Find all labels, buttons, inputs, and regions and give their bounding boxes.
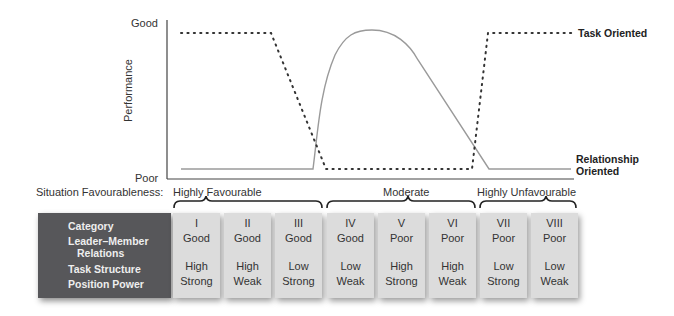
category-power: Weak <box>224 275 271 287</box>
category-task: Low <box>531 260 578 272</box>
task-oriented-line <box>181 33 575 169</box>
category-id: VI <box>429 217 476 229</box>
category-box-V: V Poor High Strong <box>378 213 425 298</box>
category-power: Strong <box>378 275 425 287</box>
header-lmr-line2: Relations <box>77 247 124 259</box>
category-lmr: Poor <box>429 232 476 244</box>
header-position-power: Position Power <box>68 278 144 290</box>
performance-chart <box>0 0 674 200</box>
category-power: Strong <box>173 275 220 287</box>
category-id: II <box>224 217 271 229</box>
category-power: Weak <box>531 275 578 287</box>
category-box-III: III Good Low Strong <box>275 213 322 298</box>
brace-moderate <box>327 196 475 208</box>
category-power: Weak <box>429 275 476 287</box>
criteria-header-box: Category Leader–Member Relations Task St… <box>38 213 171 298</box>
brace-highly-unfavourable <box>480 196 576 208</box>
category-task: High <box>173 260 220 272</box>
category-box-VIII: VIII Poor Low Weak <box>531 213 578 298</box>
category-lmr: Good <box>173 232 220 244</box>
category-id: V <box>378 217 425 229</box>
brace-highly-favourable <box>174 196 322 208</box>
category-box-IV: IV Good Low Weak <box>327 213 374 298</box>
category-lmr: Poor <box>378 232 425 244</box>
category-lmr: Poor <box>531 232 578 244</box>
category-box-VI: VI Poor High Weak <box>429 213 476 298</box>
category-box-II: II Good High Weak <box>224 213 271 298</box>
category-lmr: Good <box>224 232 271 244</box>
category-power: Strong <box>480 275 527 287</box>
group-braces <box>0 196 674 212</box>
relationship-oriented-line <box>181 30 571 169</box>
category-power: Weak <box>327 275 374 287</box>
category-task: High <box>429 260 476 272</box>
category-task: Low <box>480 260 527 272</box>
category-box-I: I Good High Strong <box>173 213 220 298</box>
category-box-VII: VII Poor Low Strong <box>480 213 527 298</box>
category-id: IV <box>327 217 374 229</box>
category-id: VII <box>480 217 527 229</box>
category-id: VIII <box>531 217 578 229</box>
header-category: Category <box>68 220 114 232</box>
legend-relationship-oriented: Relationship Oriented <box>576 153 666 177</box>
category-task: Low <box>275 260 322 272</box>
header-lmr-line1: Leader–Member <box>68 235 149 247</box>
category-lmr: Good <box>327 232 374 244</box>
legend-task-oriented: Task Oriented <box>578 27 648 39</box>
category-task: High <box>378 260 425 272</box>
category-id: I <box>173 217 220 229</box>
category-id: III <box>275 217 322 229</box>
category-task: Low <box>327 260 374 272</box>
category-task: High <box>224 260 271 272</box>
category-lmr: Poor <box>480 232 527 244</box>
category-power: Strong <box>275 275 322 287</box>
category-lmr: Good <box>275 232 322 244</box>
header-task-structure: Task Structure <box>68 263 141 275</box>
